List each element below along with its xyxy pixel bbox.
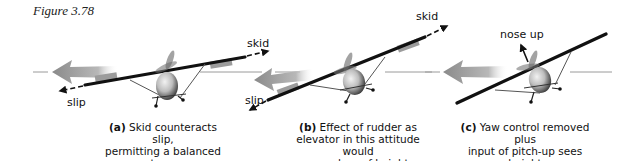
caption-tag: (a) [109,121,126,133]
caption-line: cause loss of height. [304,157,412,161]
caption-line: permitting a balanced turn. [105,145,221,161]
caption-line: input of pitch-up sees height [468,145,582,161]
skid-label-b: skid [416,10,438,23]
caption-tag: (b) [299,121,316,133]
nose-up-label: nose up [500,28,544,41]
motion-arrow-icon [443,60,508,84]
caption-b: (b) Effect of rudder as elevator in this… [283,121,433,161]
caption-tag: (c) [461,121,477,133]
skid-arrow-icon [247,51,268,56]
caption-c: (c) Yaw control removed plus input of pi… [450,121,600,161]
caption-a: (a) Skid counteracts slip, permitting a … [98,121,228,161]
caption-line: elevator in this attitude would [296,133,420,157]
caption-line: Effect of rudder as [320,121,417,133]
slip-label-b: slip [245,94,264,107]
skid-arrow-icon [427,26,447,36]
skid-label-a: skid [247,37,269,50]
slip-arrow-icon [60,86,83,91]
panel-b-drawing [250,26,447,110]
nose-up-arrow-icon [521,45,528,62]
panel-c-drawing [425,34,612,104]
caption-line: Skid counteracts slip, [129,121,217,145]
caption-line: Yaw control removed plus [480,121,590,145]
slip-label-a: slip [67,96,86,109]
